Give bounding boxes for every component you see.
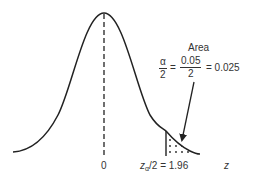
normal-curve-figure	[0, 0, 258, 183]
mean-label: 0	[101, 161, 107, 171]
fraction-numerator: 0.05	[180, 56, 201, 68]
bell-curve	[13, 13, 200, 154]
fraction-numerator: α	[159, 57, 167, 69]
equals-sign: =	[170, 63, 176, 73]
area-value: = 0.025	[206, 63, 240, 73]
point05-over-two-fraction: 0.05 2	[180, 56, 201, 79]
critical-value-label: zα/2 = 1.96	[140, 161, 188, 172]
critical-value-text: /2 = 1.96	[149, 160, 188, 171]
area-title: Area	[188, 43, 209, 53]
z-axis-label: z	[224, 161, 229, 171]
annotation-arrow	[182, 82, 194, 140]
alpha-over-two-fraction: α 2	[159, 57, 167, 80]
fraction-denominator: 2	[160, 69, 166, 80]
fraction-denominator: 2	[188, 68, 194, 79]
